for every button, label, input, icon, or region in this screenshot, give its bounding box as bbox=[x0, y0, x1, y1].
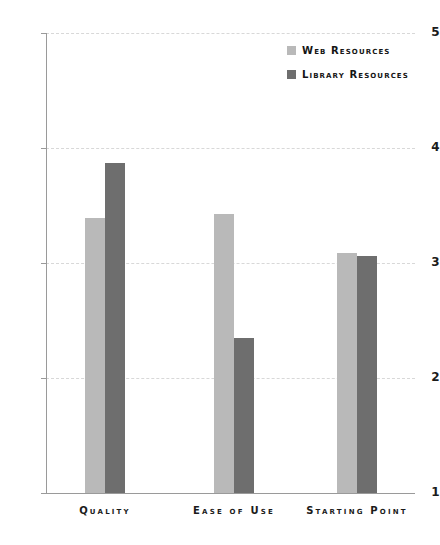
chart-title-clipped bbox=[0, 0, 440, 7]
bar-quality-library-resources bbox=[105, 163, 125, 493]
bar-chart: 54321 QualityEase of UseStarting Point W… bbox=[0, 0, 440, 545]
bar-starting-point-library-resources bbox=[357, 256, 377, 493]
legend-item[interactable]: Web Resources bbox=[287, 41, 409, 60]
bar-ease-of-use-web-resources bbox=[214, 214, 234, 493]
bar-quality-web-resources bbox=[85, 218, 105, 493]
bar-ease-of-use-library-resources bbox=[234, 338, 254, 493]
plot-area bbox=[46, 33, 415, 493]
legend-label: Web Resources bbox=[302, 45, 390, 56]
legend-swatch-icon bbox=[287, 46, 296, 55]
legend-item[interactable]: Library Resources bbox=[287, 65, 409, 84]
bar-starting-point-web-resources bbox=[337, 253, 357, 493]
x-axis-label-starting-point: Starting Point bbox=[277, 505, 437, 516]
legend-swatch-icon bbox=[287, 70, 296, 79]
x-axis-line bbox=[46, 493, 415, 494]
legend-label: Library Resources bbox=[302, 69, 409, 80]
chart-legend: Web ResourcesLibrary Resources bbox=[287, 41, 409, 89]
